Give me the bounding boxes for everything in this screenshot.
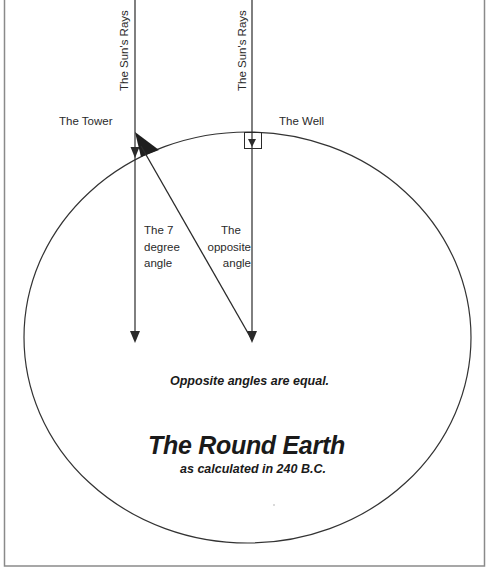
earth-circle bbox=[24, 132, 471, 543]
sun-rays-label-left: The Sun's Rays bbox=[119, 10, 131, 91]
round-earth-diagram: The Sun's Rays The Sun's Rays The Tower … bbox=[0, 0, 488, 573]
opposite-angle-label: The opposite angle bbox=[205, 222, 251, 272]
opposite-angles-statement: Opposite angles are equal. bbox=[170, 375, 329, 388]
opposite-line-1: The bbox=[205, 222, 251, 239]
sun-rays-label-right: The Sun's Rays bbox=[237, 10, 249, 91]
diagram-title: The Round Earth bbox=[148, 433, 345, 458]
tower-wedge bbox=[135, 132, 159, 157]
arrow-head-tower-top bbox=[131, 147, 140, 158]
well-label: The Well bbox=[279, 116, 324, 128]
seven-degree-angle-label: The 7 degree angle bbox=[144, 222, 180, 272]
seven-degree-line-2: degree bbox=[144, 239, 180, 256]
arrow-head-tower-bottom bbox=[130, 331, 140, 343]
opposite-line-2: opposite bbox=[205, 239, 251, 256]
opposite-line-3: angle bbox=[205, 255, 251, 272]
seven-degree-line-3: angle bbox=[144, 255, 180, 272]
diagram-subtitle: as calculated in 240 B.C. bbox=[180, 463, 326, 476]
speck bbox=[273, 504, 274, 505]
seven-degree-line-1: The 7 bbox=[144, 222, 180, 239]
tower-label: The Tower bbox=[59, 116, 112, 128]
arrow-head-well-top bbox=[248, 139, 256, 147]
